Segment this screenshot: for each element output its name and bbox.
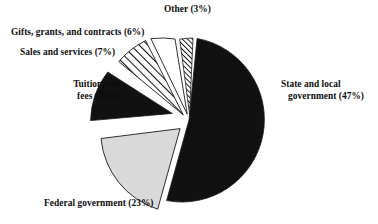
pie-label-gifts-text: Gifts, grants, and contracts (6%)	[11, 27, 144, 39]
pie-slice-state-and-local-government[interactable]	[167, 38, 265, 202]
pie-label-federal-government: Federal government (23%)	[44, 198, 154, 210]
pie-label-other: Other (3%)	[164, 4, 211, 16]
pie-label-tuition-line1: Tuition and	[24, 79, 120, 91]
pie-label-state-line1: State and local	[281, 79, 364, 91]
pie-label-state-and-local-government: State and local government (47%)	[281, 79, 364, 102]
pie-label-sales-and-services: Sales and services (7%)	[20, 47, 115, 59]
pie-label-federal-text: Federal government (23%)	[44, 198, 154, 210]
pie-label-other-text: Other (3%)	[164, 4, 211, 16]
pie-chart-figure: Other (3%) Gifts, grants, and contracts …	[0, 0, 378, 224]
pie-label-tuition-line2: fees (14%)	[24, 91, 120, 103]
pie-label-gifts-grants-and-contracts: Gifts, grants, and contracts (6%)	[11, 27, 144, 39]
pie-label-state-line2: government (47%)	[281, 91, 364, 103]
pie-label-sales-text: Sales and services (7%)	[20, 47, 115, 59]
pie-label-tuition-and-fees: Tuition and fees (14%)	[24, 79, 120, 102]
